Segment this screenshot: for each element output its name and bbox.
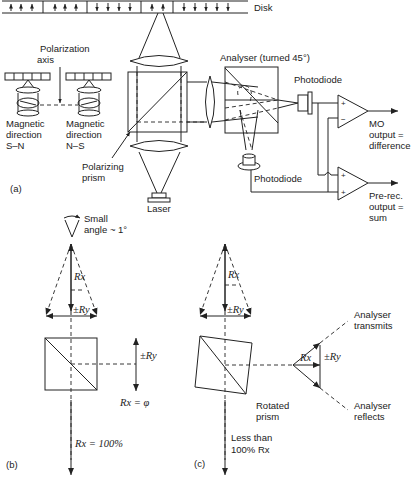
side-lens: [206, 76, 215, 128]
laser: Laser: [147, 193, 171, 214]
svg-text:output =: output =: [369, 129, 404, 140]
svg-text:+: +: [341, 99, 346, 108]
svg-text:S–N: S–N: [6, 140, 25, 151]
disk: Disk: [2, 1, 273, 13]
svg-text:Rx = 100%: Rx = 100%: [74, 438, 123, 449]
magnetic-domain-arrows: [11, 3, 228, 11]
mo-readout-diagram: Disk Laser: [0, 0, 413, 477]
svg-text:transmits: transmits: [354, 320, 393, 331]
panel-a-label: (a): [10, 183, 22, 194]
panel-b-label: (b): [6, 459, 18, 470]
svg-text:sum: sum: [369, 212, 387, 223]
svg-text:Rx: Rx: [73, 271, 85, 282]
svg-text:±Ry: ±Ry: [140, 350, 157, 361]
svg-text:difference: difference: [369, 140, 411, 151]
svg-text:MO: MO: [369, 118, 384, 129]
svg-text:N–S: N–S: [66, 140, 84, 151]
svg-text:Small: Small: [84, 213, 108, 224]
svg-text:angle ~ 1°: angle ~ 1°: [84, 224, 127, 235]
panel-a: Disk Laser: [2, 1, 411, 223]
collimator-lens: [130, 141, 188, 152]
svg-text:direction: direction: [66, 129, 102, 140]
svg-text:axis: axis: [37, 54, 54, 65]
svg-text:Rx = φ: Rx = φ: [119, 397, 149, 408]
svg-text:Magnetic: Magnetic: [6, 118, 45, 129]
svg-text:100% Rx: 100% Rx: [231, 444, 270, 455]
svg-text:Rotated: Rotated: [256, 400, 289, 411]
svg-text:prism: prism: [256, 411, 279, 422]
prerec-output-label: Pre-rec. output = sum: [369, 190, 404, 223]
svg-text:Polarizing: Polarizing: [82, 161, 124, 172]
laser-label: Laser: [147, 203, 171, 214]
svg-text:Magnetic: Magnetic: [66, 118, 105, 129]
disk-label: Disk: [254, 2, 273, 13]
panel-b: Small angle ~ 1° Rx ±Ry ±Ry Rx = φ Rx = …: [6, 213, 157, 475]
mo-output-label: MO output = difference: [369, 118, 411, 151]
svg-text:prism: prism: [82, 172, 105, 183]
analyser: Analyser (turned 45°): [220, 52, 310, 150]
svg-text:Analyser: Analyser: [354, 309, 391, 320]
analyser-label: Analyser (turned 45°): [220, 52, 310, 63]
photodiode-bottom: Photodiode: [238, 154, 302, 184]
svg-text:output =: output =: [369, 201, 404, 212]
svg-text:−: −: [341, 115, 346, 124]
polarizing-prism: [128, 72, 207, 142]
svg-text:±Ry: ±Ry: [227, 304, 244, 315]
svg-text:Rx: Rx: [227, 269, 239, 280]
svg-text:Rx: Rx: [299, 352, 311, 363]
polarization-inset: Polarization axis: [5, 43, 111, 151]
svg-text:Polarization: Polarization: [40, 43, 90, 54]
svg-text:reflects: reflects: [354, 411, 385, 422]
svg-text:+: +: [341, 188, 346, 197]
panel-c: Rx ±Ry Rx ±Ry Analyser transmits Analyse…: [194, 244, 393, 475]
differential-amplifier: + −: [338, 95, 398, 128]
photodiode-top-label: Photodiode: [294, 74, 342, 85]
svg-text:±Ry: ±Ry: [324, 351, 341, 362]
svg-text:direction: direction: [6, 129, 42, 140]
panel-c-label: (c): [194, 458, 205, 469]
svg-text:Pre-rec.: Pre-rec.: [369, 190, 403, 201]
svg-text:±Ry: ±Ry: [73, 304, 90, 315]
photodiode-bottom-label: Photodiode: [254, 173, 302, 184]
svg-text:Analyser: Analyser: [354, 400, 391, 411]
svg-text:Less than: Less than: [231, 432, 272, 443]
svg-text:+: +: [341, 171, 346, 180]
